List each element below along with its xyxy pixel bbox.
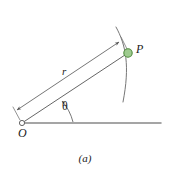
polar-coordinate-diagram — [0, 0, 170, 173]
label-origin: O — [18, 127, 27, 139]
radial-line-OP — [22, 53, 128, 123]
origin-marker — [19, 120, 24, 125]
label-point-p: P — [136, 43, 143, 55]
label-angle-theta: θ — [62, 100, 68, 112]
dimension-line-r — [17, 42, 119, 110]
label-radius-r: r — [62, 66, 66, 77]
figure-container: P O r θ (a) — [0, 0, 170, 173]
figure-caption: (a) — [0, 152, 170, 164]
point-p-marker — [124, 49, 132, 57]
